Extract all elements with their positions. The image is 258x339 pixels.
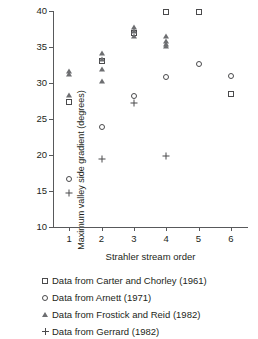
x-axis-line (53, 227, 248, 228)
legend-label: Data from Gerrard (1982) (52, 327, 159, 337)
data-point-plus (130, 100, 137, 107)
x-tick-label: 2 (99, 234, 104, 244)
data-point-triangle (99, 66, 105, 71)
x-tick (134, 227, 135, 231)
y-tick (49, 155, 53, 156)
legend-label: Data from Arnett (1971) (52, 293, 151, 303)
x-tick-label: 3 (131, 234, 136, 244)
legend-item: Data from Carter and Chorley (1961) (38, 272, 258, 289)
data-point-plus (163, 153, 170, 160)
x-tick (199, 227, 200, 231)
y-tick-label: 40 (36, 6, 47, 16)
legend-label: Data from Carter and Chorley (1961) (52, 276, 207, 286)
data-point-circle (228, 73, 234, 79)
y-tick (49, 191, 53, 192)
data-point-circle (99, 124, 105, 130)
data-point-circle (196, 61, 202, 67)
y-tick-label: 15 (36, 186, 47, 196)
data-point-triangle (66, 92, 72, 97)
data-point-square (228, 91, 234, 97)
data-point-triangle (66, 69, 72, 74)
y-axis-line (53, 11, 54, 228)
x-tick (69, 227, 70, 231)
plus-icon (38, 326, 52, 338)
data-point-circle (66, 176, 72, 182)
data-point-triangle (99, 57, 105, 62)
plot-area: 10152025303540 123456 (53, 11, 247, 227)
y-tick-label: 20 (36, 150, 47, 160)
x-tick-label: 4 (164, 234, 169, 244)
x-axis-title: Strahler stream order (53, 252, 248, 262)
data-point-triangle (131, 34, 137, 39)
x-tick (231, 227, 232, 231)
legend-label: Data from Frostick and Reid (1982) (52, 310, 200, 320)
data-point-circle (131, 93, 137, 99)
x-tick-label: 6 (228, 234, 233, 244)
data-point-triangle (163, 38, 169, 43)
data-point-triangle (163, 44, 169, 49)
circle-icon (38, 292, 52, 304)
data-point-circle (163, 74, 169, 80)
y-tick-label: 25 (36, 114, 47, 124)
data-point-triangle (66, 72, 72, 77)
y-tick (49, 11, 53, 12)
legend-item: Data from Gerrard (1982) (38, 323, 258, 339)
y-tick (49, 47, 53, 48)
y-tick-label: 10 (36, 222, 47, 232)
data-point-triangle (131, 29, 137, 34)
y-tick (49, 227, 53, 228)
data-point-triangle (131, 24, 137, 29)
chart-legend: Data from Carter and Chorley (1961)Data … (38, 272, 258, 339)
data-point-square (163, 9, 169, 15)
data-point-square (66, 99, 72, 105)
data-point-square (196, 9, 202, 15)
square-icon (38, 275, 52, 287)
x-tick-label: 1 (67, 234, 72, 244)
data-point-triangle (99, 50, 105, 55)
data-point-plus (66, 190, 73, 197)
triangle-icon (38, 309, 52, 321)
data-point-triangle (163, 42, 169, 47)
scatter-chart-figure: Maximum valley side gradient (degrees) 1… (0, 0, 258, 339)
data-point-triangle (99, 78, 105, 83)
data-point-square (99, 58, 105, 64)
x-tick (102, 227, 103, 231)
x-tick (166, 227, 167, 231)
x-tick-label: 5 (196, 234, 201, 244)
y-tick-label: 30 (36, 78, 47, 88)
legend-item: Data from Frostick and Reid (1982) (38, 306, 258, 323)
y-tick-label: 35 (36, 42, 47, 52)
data-point-plus (98, 155, 105, 162)
data-point-triangle (163, 34, 169, 39)
y-tick (49, 119, 53, 120)
data-point-square (131, 30, 137, 36)
y-tick (49, 83, 53, 84)
legend-item: Data from Arnett (1971) (38, 289, 258, 306)
